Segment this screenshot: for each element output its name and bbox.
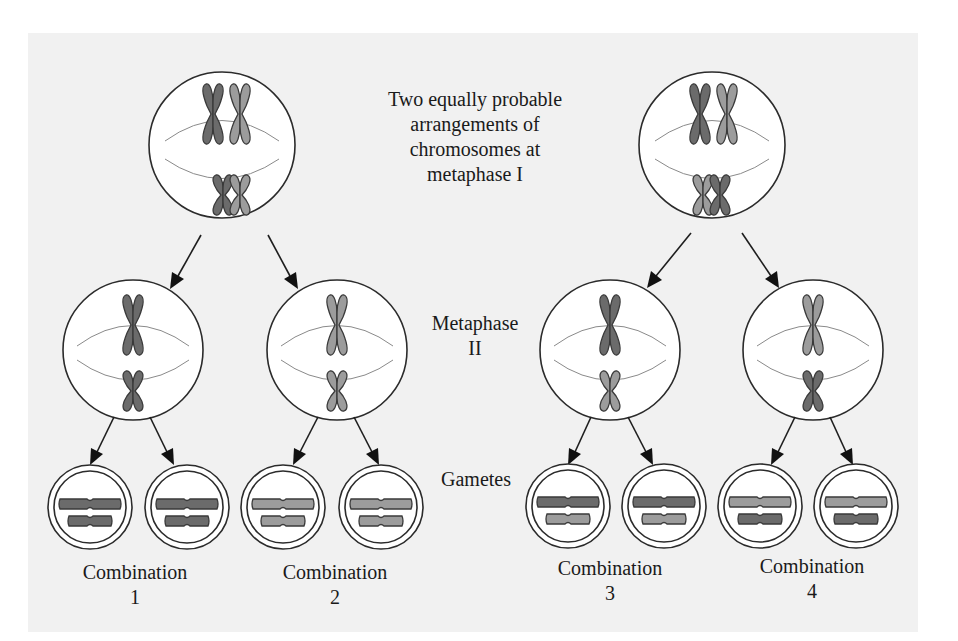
metaphase-ii-cell-3 — [540, 280, 680, 420]
gamete-3 — [241, 465, 325, 549]
gamete-5 — [526, 464, 610, 548]
svg-text:Metaphase: Metaphase — [432, 312, 519, 335]
meiosis-independent-assortment-diagram: Two equally probable arrangements of chr… — [0, 0, 958, 641]
svg-text:chromosomes at: chromosomes at — [410, 138, 541, 160]
metaphase-ii-cell-4 — [743, 280, 883, 420]
svg-text:2: 2 — [330, 586, 340, 608]
gamete-4 — [339, 465, 423, 549]
gamete-6 — [622, 464, 706, 548]
svg-text:4: 4 — [807, 580, 817, 602]
gamete-7 — [718, 464, 802, 548]
svg-text:3: 3 — [605, 582, 615, 604]
svg-text:arrangements of: arrangements of — [410, 113, 540, 136]
svg-text:metaphase I: metaphase I — [427, 163, 523, 186]
gamete-2 — [145, 465, 229, 549]
svg-text:Combination: Combination — [558, 557, 662, 579]
metaphase-i-cell-right — [639, 72, 785, 218]
metaphase-ii-cell-1 — [63, 280, 203, 420]
gametes-label: Gametes — [441, 468, 511, 490]
svg-text:Combination: Combination — [283, 561, 387, 583]
svg-text:Combination: Combination — [83, 561, 187, 583]
svg-text:Combination: Combination — [760, 555, 864, 577]
svg-text:1: 1 — [130, 586, 140, 608]
metaphase-i-cell-left — [149, 72, 295, 218]
gamete-8 — [814, 464, 898, 548]
gamete-1 — [48, 465, 132, 549]
svg-text:Two equally probable: Two equally probable — [388, 88, 562, 111]
metaphase-ii-cell-2 — [267, 280, 407, 420]
svg-text:II: II — [468, 337, 481, 359]
